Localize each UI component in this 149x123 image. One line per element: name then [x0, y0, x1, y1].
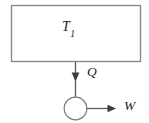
engine-circle — [64, 97, 87, 120]
reservoir-label-base: T — [62, 19, 70, 34]
reservoir-label: T1 — [62, 20, 75, 37]
heat-arrow-label: Q — [87, 65, 97, 79]
reservoir-rectangle — [12, 6, 141, 62]
work-arrow-head — [108, 105, 117, 112]
work-arrow-label: W — [124, 99, 135, 113]
heat-engine-diagram: T1 Q W — [0, 0, 149, 123]
heat-arrow-head — [72, 73, 80, 82]
reservoir-label-subscript: 1 — [70, 29, 75, 39]
